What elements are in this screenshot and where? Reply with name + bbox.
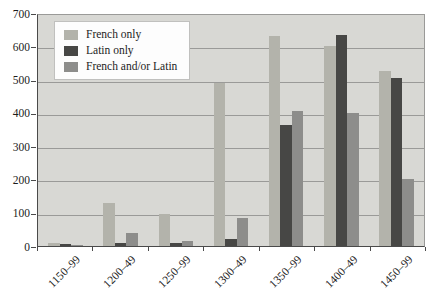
x-axis-label: 1350–99: [267, 253, 304, 290]
legend-item-latin-only: Latin only: [64, 44, 177, 57]
x-axis-tick: [37, 247, 38, 251]
x-axis-label: 1150–99: [46, 253, 83, 290]
bar: [48, 243, 60, 246]
bar: [225, 239, 237, 246]
bar: [391, 78, 403, 246]
y-axis-tick: [31, 180, 36, 181]
bar-group: [314, 15, 369, 246]
x-axis-label: 1450–99: [378, 253, 415, 290]
bar-group: [203, 15, 258, 246]
y-axis-tick: [31, 247, 36, 248]
y-axis-tick: [31, 14, 36, 15]
x-axis-tick: [148, 247, 149, 251]
bar: [237, 218, 249, 246]
y-axis-label: 600: [0, 42, 30, 53]
bar: [324, 46, 336, 246]
bar-group: [259, 15, 314, 246]
y-axis-label: 400: [0, 108, 30, 119]
bar-chart: 0100200300400500600700 1150–991200–49125…: [0, 0, 436, 295]
y-axis-label: 0: [0, 242, 30, 253]
legend-label-french-only: French only: [86, 28, 141, 41]
legend: French only Latin only French and/or Lat…: [54, 21, 190, 80]
y-axis-label: 100: [0, 208, 30, 219]
y-axis-label: 700: [0, 9, 30, 20]
bar: [159, 214, 171, 246]
x-axis-label: 1400–49: [322, 253, 359, 290]
x-axis-tick: [370, 247, 371, 251]
bar: [280, 125, 292, 246]
x-axis-label: 1300–49: [212, 253, 249, 290]
y-axis-tick: [31, 114, 36, 115]
bar: [269, 36, 281, 246]
y-axis-label: 500: [0, 75, 30, 86]
y-axis-tick: [31, 81, 36, 82]
x-axis-tick: [425, 247, 426, 251]
bar: [60, 244, 72, 246]
legend-item-french-andor-latin: French and/or Latin: [64, 60, 177, 73]
bar: [126, 233, 138, 246]
x-axis-tick: [314, 247, 315, 251]
bar: [170, 243, 182, 246]
y-axis-tick: [31, 147, 36, 148]
x-axis-tick: [203, 247, 204, 251]
y-axis-label: 200: [0, 175, 30, 186]
x-axis-label: 1250–99: [156, 253, 193, 290]
bar: [336, 35, 348, 246]
bar: [71, 245, 83, 246]
legend-item-french-only: French only: [64, 28, 177, 41]
x-axis-label: 1200–49: [101, 253, 138, 290]
bar: [182, 241, 194, 246]
bar: [402, 179, 414, 246]
bar: [292, 111, 304, 246]
y-axis-tick: [31, 214, 36, 215]
y-axis-tick: [31, 47, 36, 48]
bar: [379, 71, 391, 246]
bar: [214, 83, 226, 246]
x-axis-tick: [92, 247, 93, 251]
bar-group: [369, 15, 424, 246]
legend-label-french-andor-latin: French and/or Latin: [86, 60, 177, 73]
bar: [103, 203, 115, 246]
legend-swatch-french-andor-latin: [64, 62, 78, 72]
legend-swatch-latin-only: [64, 46, 78, 56]
x-axis-tick: [259, 247, 260, 251]
bar: [115, 243, 127, 246]
y-axis-label: 300: [0, 142, 30, 153]
legend-label-latin-only: Latin only: [86, 44, 134, 57]
bar: [347, 113, 359, 246]
legend-swatch-french-only: [64, 30, 78, 40]
